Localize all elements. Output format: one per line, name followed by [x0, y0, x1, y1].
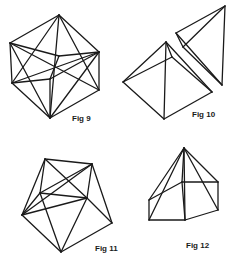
edge [40, 164, 92, 193]
edge [59, 15, 99, 52]
figure-canvas [0, 0, 229, 260]
edge [172, 57, 212, 92]
edge [40, 193, 61, 252]
edge [10, 43, 12, 83]
edge [87, 164, 92, 198]
edge [123, 42, 166, 82]
edge [166, 42, 212, 92]
edge [123, 82, 164, 119]
edge [183, 6, 225, 47]
wireframe-11 [22, 159, 112, 252]
fig-9-label: Fig 9 [72, 114, 91, 123]
edge [45, 159, 92, 164]
edge [185, 210, 218, 220]
edge [149, 148, 184, 200]
edge [12, 83, 50, 118]
fig-12-label: Fig 12 [186, 241, 209, 250]
fig-10-label: Fig 10 [192, 110, 215, 119]
edge [10, 15, 59, 43]
edge [222, 6, 225, 85]
wireframe-12 [149, 148, 218, 220]
edge [10, 43, 59, 56]
edge [176, 6, 225, 33]
edge [164, 42, 166, 119]
edge [184, 148, 218, 210]
fig-11-label: Fig 11 [95, 244, 118, 253]
wireframe-10 [123, 6, 225, 119]
edge [22, 198, 87, 215]
edge [22, 215, 61, 252]
edge [184, 148, 218, 182]
edge [92, 164, 112, 223]
edge [166, 42, 172, 57]
wireframe-9 [10, 15, 99, 118]
